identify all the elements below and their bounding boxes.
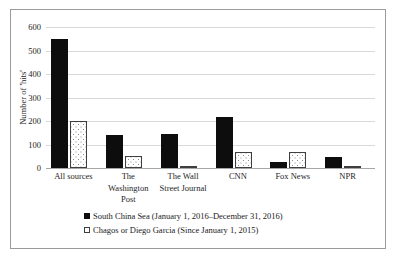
bar-chagos-diego-garcia xyxy=(125,156,142,168)
bar-chagos-diego-garcia xyxy=(235,152,252,168)
x-category-label: The WallStreet Journal xyxy=(156,171,211,194)
bar-chagos-diego-garcia xyxy=(180,166,197,168)
y-tick-label: 0 xyxy=(37,164,41,173)
bar-group xyxy=(211,27,266,168)
x-category-label: CNN xyxy=(211,171,266,183)
x-category-label-line: NPR xyxy=(320,171,375,183)
x-category-label: All sources xyxy=(46,171,101,183)
bar-south-china-sea xyxy=(51,39,68,168)
legend-dotted-square-icon xyxy=(84,227,90,233)
bars-layer xyxy=(46,27,375,168)
y-tick-label: 200 xyxy=(28,117,41,126)
x-category-label: Fox News xyxy=(265,171,320,183)
chart-figure: Number of 'hits' 0100200300400500600 All… xyxy=(0,0,397,260)
bar-south-china-sea xyxy=(161,134,178,168)
y-tick-label: 500 xyxy=(28,46,41,55)
bar-south-china-sea xyxy=(106,135,123,168)
legend-item: South China Sea (January 1, 2016–Decembe… xyxy=(84,209,344,223)
bar-south-china-sea xyxy=(270,162,287,168)
legend-black-square-icon xyxy=(84,213,90,219)
y-tick-label: 100 xyxy=(28,140,41,149)
plot-area: 0100200300400500600 xyxy=(46,27,375,168)
x-category-label: TheWashingtonPost xyxy=(101,171,156,206)
y-tick-label: 300 xyxy=(28,93,41,102)
bar-chagos-diego-garcia xyxy=(289,152,306,168)
x-axis-category-labels: All sourcesTheWashingtonPostThe WallStre… xyxy=(46,171,375,211)
x-category-label-line: CNN xyxy=(211,171,266,183)
bar-group xyxy=(320,27,375,168)
bar-group xyxy=(156,27,211,168)
x-category-label-line: The xyxy=(101,171,156,183)
bar-group xyxy=(101,27,156,168)
chart-legend: South China Sea (January 1, 2016–Decembe… xyxy=(84,209,344,237)
bar-group xyxy=(265,27,320,168)
gridline-0 xyxy=(46,168,375,169)
x-category-label-line: Washington xyxy=(101,183,156,195)
bar-south-china-sea xyxy=(216,117,233,168)
x-category-label-line: All sources xyxy=(46,171,101,183)
bar-group xyxy=(46,27,101,168)
bar-chagos-diego-garcia xyxy=(70,121,87,168)
x-category-label-line: Post xyxy=(101,194,156,206)
x-category-label-line: Fox News xyxy=(265,171,320,183)
x-category-label-line: The Wall xyxy=(156,171,211,183)
legend-item-label: South China Sea (January 1, 2016–Decembe… xyxy=(93,212,283,221)
bar-south-china-sea xyxy=(325,157,342,168)
y-tick-label: 600 xyxy=(28,23,41,32)
x-category-label: NPR xyxy=(320,171,375,183)
legend-item-label: Chagos or Diego Garcia (Since January 1,… xyxy=(93,226,258,235)
bar-chagos-diego-garcia xyxy=(344,166,361,168)
x-category-label-line: Street Journal xyxy=(156,183,211,195)
y-tick-label: 400 xyxy=(28,70,41,79)
legend-item: Chagos or Diego Garcia (Since January 1,… xyxy=(84,223,344,237)
